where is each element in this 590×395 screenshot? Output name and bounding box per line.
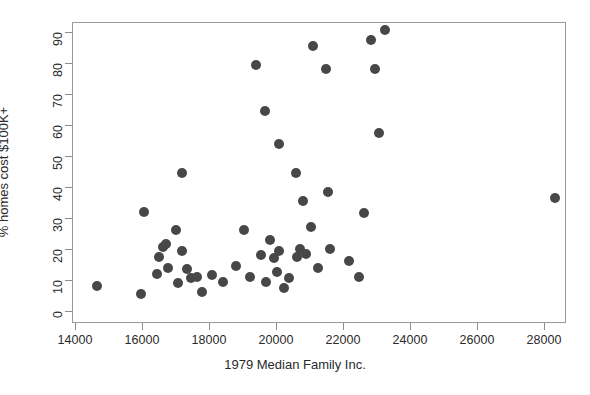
y-axis-title-text: % homes cost $100K+: [0, 107, 11, 237]
x-axis-tick: [75, 323, 76, 330]
y-axis-tick: [65, 94, 72, 95]
x-axis-tick-label: 18000: [174, 333, 244, 347]
x-axis-tick-label: 16000: [107, 333, 177, 347]
x-axis-tick-label: 24000: [375, 333, 445, 347]
x-axis-tick: [477, 323, 478, 330]
x-axis-tick: [410, 323, 411, 330]
y-axis-tick: [65, 63, 72, 64]
x-axis-tick-label: 14000: [40, 333, 110, 347]
x-axis-title: 1979 Median Family Inc.: [0, 357, 590, 372]
y-axis-tick: [65, 32, 72, 33]
x-axis-tick: [276, 323, 277, 330]
x-axis-tick-label: 26000: [442, 333, 512, 347]
x-axis-tick: [142, 323, 143, 330]
x-axis-tick: [209, 323, 210, 330]
y-axis-tick: [65, 187, 72, 188]
plot-area-frame: [72, 22, 566, 323]
y-axis-tick: [65, 218, 72, 219]
y-axis-tick: [65, 156, 72, 157]
x-axis-tick: [544, 323, 545, 330]
x-axis-tick-label: 22000: [308, 333, 378, 347]
y-axis-tick: [65, 280, 72, 281]
x-axis-tick: [343, 323, 344, 330]
scatter-plot-figure: 0102030405060708090 14000160001800020000…: [0, 0, 590, 395]
x-axis-tick-label: 20000: [241, 333, 311, 347]
y-axis-tick: [65, 125, 72, 126]
y-axis-tick: [65, 249, 72, 250]
y-axis-tick: [65, 311, 72, 312]
x-axis-tick-label: 28000: [509, 333, 579, 347]
x-axis-title-text: 1979 Median Family Inc.: [224, 357, 366, 372]
